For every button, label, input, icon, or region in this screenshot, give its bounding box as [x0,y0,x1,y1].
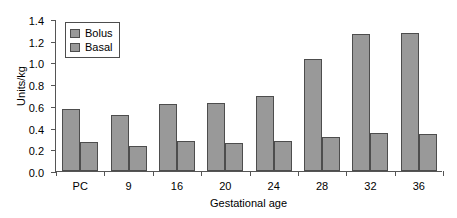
y-tick: 1.4 [51,20,56,21]
bar-basal-20 [225,143,243,171]
bar-bolus-16 [159,104,177,171]
bar-basal-24 [274,141,292,171]
y-tick-label: 0.4 [29,124,44,136]
legend-item-bolus: Bolus [70,26,113,40]
bar-basal-9 [129,146,147,171]
legend-swatch-icon [70,29,80,38]
bar-bolus-36 [401,33,419,171]
y-tick: 1.2 [51,42,56,43]
y-tick-label: 0.2 [29,145,44,157]
y-tick: 0.4 [51,129,56,130]
bar-bolus-9 [111,115,129,171]
y-tick-label: 0.6 [29,102,44,114]
x-tick-label: 28 [316,180,328,192]
x-tick [104,171,105,176]
legend-item-label: Bolus [85,27,113,39]
x-tick [298,171,299,176]
x-tick-label: 16 [171,180,183,192]
bar-bolus-PC [62,109,80,171]
y-tick-label: 1.4 [29,15,44,27]
y-tick-label: 0.0 [29,167,44,179]
bar-bolus-24 [256,96,274,171]
bar-bolus-20 [207,103,225,171]
bar-basal-PC [80,142,98,171]
y-tick-label: 1.2 [29,37,44,49]
bar-basal-36 [419,134,437,171]
y-axis-title: Units/kg [14,0,28,172]
y-tick: 0.8 [51,85,56,86]
x-tick-label: 9 [126,180,132,192]
x-tick [153,171,154,176]
x-tick [395,171,396,176]
x-tick-label: 20 [219,180,231,192]
x-tick [201,171,202,176]
bar-basal-32 [370,133,388,171]
x-tick [56,171,57,176]
x-tick-label: 32 [364,180,376,192]
x-tick [346,171,347,176]
bar-basal-28 [322,137,340,171]
y-tick-label: 0.8 [29,80,44,92]
x-axis-title: Gestational age [55,197,442,209]
x-tick-label: 24 [268,180,280,192]
y-tick-label: 1.0 [29,58,44,70]
x-tick-label: PC [73,180,88,192]
legend-swatch-icon [70,43,80,52]
bar-basal-16 [177,141,195,171]
y-tick: 0.2 [51,150,56,151]
plot-area: 0.00.20.40.60.81.01.21.4 PC9162024283236… [55,20,442,172]
y-tick: 1.0 [51,63,56,64]
bar-chart: Units/kg 0.00.20.40.60.81.01.21.4 PC9162… [0,0,457,218]
legend-item-basal: Basal [70,40,113,54]
y-tick: 0.6 [51,107,56,108]
legend-item-label: Basal [85,41,113,53]
bar-bolus-32 [352,34,370,171]
bar-bolus-28 [304,59,322,171]
chart-legend: Bolus Basal [65,22,120,58]
x-tick-label: 36 [413,180,425,192]
x-tick [443,171,444,176]
x-tick [250,171,251,176]
